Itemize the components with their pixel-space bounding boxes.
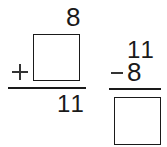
sum: 11 — [57, 92, 86, 116]
plus-sign-icon — [12, 64, 28, 80]
missing-addend-answer-box[interactable] — [33, 34, 80, 81]
top-addend: 8 — [66, 4, 80, 30]
minus-sign-icon — [111, 72, 123, 74]
sum-line — [8, 87, 86, 89]
difference-line — [109, 88, 161, 90]
subtrahend: 8 — [127, 59, 141, 85]
difference-answer-box[interactable] — [114, 97, 161, 145]
